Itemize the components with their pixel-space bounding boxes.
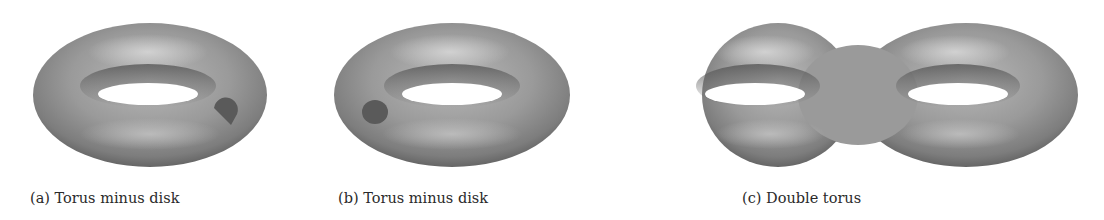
torus-b <box>334 23 570 167</box>
caption-c: (c) Double torus <box>742 190 861 206</box>
figure-illustrations <box>0 0 1104 185</box>
removed-disk <box>362 100 388 124</box>
caption-a: (a) Torus minus disk <box>30 190 179 206</box>
double-torus <box>696 23 1078 167</box>
torus-a <box>33 23 267 167</box>
torus-hole-right <box>908 83 1008 105</box>
caption-b: (b) Torus minus disk <box>338 190 488 206</box>
torus-hole <box>98 83 198 105</box>
torus-hole-left <box>705 83 805 105</box>
torus-hole <box>402 83 502 105</box>
